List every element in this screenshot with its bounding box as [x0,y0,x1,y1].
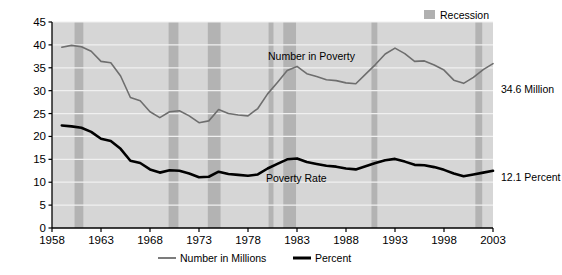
annotation-poverty-rate: Poverty Rate [266,172,327,184]
y-tick-label-30: 30 [33,85,46,97]
y-tick-label-35: 35 [33,62,46,74]
y-tick-label-5: 5 [40,199,46,211]
recession-band-2 [208,22,221,228]
recession-band-1 [169,22,179,228]
y-tick-label-0: 0 [40,222,46,234]
y-tick-label-40: 40 [33,39,46,51]
x-tick-label-1968: 1968 [137,234,163,246]
recession-band-0 [75,22,84,228]
x-tick-label-1958: 1958 [39,234,65,246]
x-tick-label-1963: 1963 [88,234,114,246]
series-legend: Number in Millions Percent [158,252,351,264]
chart-canvas: 1958196319681973197819831988199319982003… [0,0,562,275]
recession-band-6 [475,22,482,228]
x-tick-label-1973: 1973 [186,234,212,246]
y-tick-label-20: 20 [33,130,46,142]
x-tick-label-1993: 1993 [382,234,408,246]
y-tick-label-15: 15 [33,153,46,165]
recession-swatch [424,10,435,19]
poverty-chart: 1958196319681973197819831988199319982003… [0,0,562,275]
annotation-number-in-poverty: Number in Poverty [268,50,356,62]
x-tick-label-1983: 1983 [284,234,310,246]
y-tick-label-25: 25 [33,108,46,120]
legend-label-percent: Percent [315,252,351,264]
recession-legend-label: Recession [440,9,489,21]
y-tick-label-10: 10 [33,176,46,188]
x-tick-label-1988: 1988 [333,234,359,246]
legend-label-number-in-millions: Number in Millions [180,252,266,264]
end-label-million: 34.6 Million [501,83,554,95]
y-tick-label-45: 45 [33,16,46,28]
x-tick-label-2003: 2003 [480,234,506,246]
x-tick-label-1998: 1998 [431,234,457,246]
recession-band-5 [371,22,377,228]
end-label-percent: 12.1 Percent [501,171,561,183]
x-tick-label-1978: 1978 [235,234,261,246]
